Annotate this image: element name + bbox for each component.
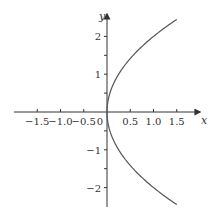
- x-tick-label: −1.0: [48, 116, 72, 127]
- x-tick-label: 1.0: [146, 116, 162, 127]
- y-tick-label: 2: [95, 31, 101, 42]
- y-ticks: −2−112: [86, 31, 107, 193]
- x-axis-label: x: [201, 114, 208, 127]
- x-tick-label: −1.5: [25, 116, 49, 127]
- x-tick-label: 1.5: [169, 116, 185, 127]
- y-axis-label: y: [98, 10, 106, 23]
- y-tick-label: −1: [86, 145, 101, 156]
- x-tick-label: 0.5: [122, 116, 138, 127]
- parabola-chart: −1.5−1.0−0.500.51.01.5 −2−112 x y: [0, 0, 214, 220]
- y-tick-label: 1: [95, 69, 101, 80]
- x-tick-label: 0: [97, 116, 103, 127]
- y-tick-label: −2: [86, 183, 101, 194]
- x-tick-label: −0.5: [72, 116, 96, 127]
